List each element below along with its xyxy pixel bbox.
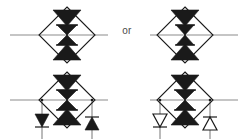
- filled-triangle-down-top: [171, 10, 199, 26]
- bottom-right-symbol[interactable]: [150, 72, 238, 139]
- bowtie-upper-triangle: [57, 25, 77, 35]
- filled-triangle-down-top: [53, 10, 81, 26]
- branch-hollow-triangle-down-left: [153, 114, 167, 127]
- branch-filled-triangle-down-left: [35, 114, 49, 127]
- branch-hollow-triangle-up-right: [203, 117, 217, 130]
- branch-junction-right: [209, 99, 212, 102]
- filled-triangle-down-top: [171, 75, 199, 91]
- bowtie-lower-triangle: [57, 35, 77, 45]
- filled-triangle-down-top: [53, 75, 81, 91]
- filled-triangle-up-bottom: [171, 109, 199, 125]
- filled-triangle-up-bottom: [53, 109, 81, 125]
- branch-junction-left: [159, 99, 162, 102]
- top-right-symbol[interactable]: [150, 7, 238, 63]
- diagram-canvas: or: [0, 0, 242, 139]
- bowtie-upper-triangle: [176, 25, 194, 35]
- bowtie-lower-triangle: [176, 35, 194, 45]
- filled-triangle-up-bottom: [53, 44, 81, 60]
- branch-junction-right: [91, 99, 94, 102]
- or-connector-label: or: [112, 25, 142, 37]
- bottom-left-symbol[interactable]: [10, 72, 108, 139]
- branch-junction-left: [41, 99, 44, 102]
- bowtie-lower-triangle: [175, 100, 195, 110]
- bowtie-lower-triangle: [57, 100, 77, 110]
- bowtie-upper-triangle: [175, 90, 195, 100]
- schematic-diagram: [0, 0, 242, 139]
- bowtie-upper-triangle: [57, 90, 77, 100]
- branch-filled-triangle-up-right: [85, 117, 99, 130]
- filled-triangle-up-bottom: [171, 44, 199, 60]
- top-left-symbol[interactable]: [10, 7, 108, 63]
